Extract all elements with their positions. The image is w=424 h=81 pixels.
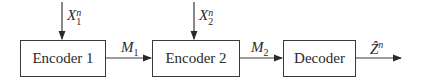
- subscript: 2: [208, 17, 213, 26]
- encoder-2-label: Encoder 2: [165, 50, 226, 67]
- symbol: M: [121, 39, 134, 55]
- symbol: X: [199, 7, 208, 23]
- edge-label-m2: M2: [251, 40, 269, 58]
- decoder-label: Decoder: [294, 50, 345, 67]
- input-label-x2: Xn2: [199, 8, 213, 26]
- subscript: 2: [264, 47, 269, 58]
- encoder-1-block: Encoder 1: [20, 40, 106, 77]
- output-label-z: Ẑn: [370, 40, 383, 57]
- symbol: M: [251, 39, 264, 55]
- edge-label-m1: M1: [121, 40, 139, 58]
- subscript: 1: [76, 17, 81, 26]
- input-label-x1: Xn1: [67, 8, 81, 26]
- encoder-2-block: Encoder 2: [152, 40, 240, 77]
- encoder-1-label: Encoder 1: [32, 50, 93, 67]
- superscript: n: [378, 39, 383, 50]
- subscript: 1: [134, 47, 139, 58]
- symbol: X: [67, 7, 76, 23]
- decoder-block: Decoder: [283, 40, 356, 77]
